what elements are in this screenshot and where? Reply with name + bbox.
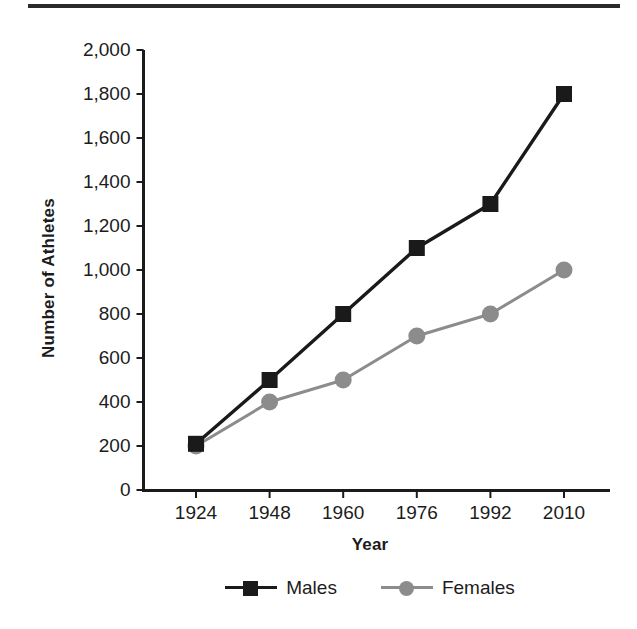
data-point-females-1960 bbox=[335, 372, 352, 389]
legend-marker-circle-icon bbox=[399, 581, 414, 596]
data-point-males-1960 bbox=[335, 306, 351, 322]
series-line-females bbox=[196, 270, 564, 446]
legend-label: Females bbox=[442, 578, 515, 597]
series-line-males bbox=[196, 94, 564, 444]
legend-marker-square-icon bbox=[243, 581, 258, 596]
x-axis-tick-label: 1924 bbox=[156, 503, 236, 522]
y-axis-tick-label: 200 bbox=[45, 436, 131, 455]
legend-swatch-females-icon bbox=[381, 579, 433, 597]
data-point-females-2010 bbox=[556, 262, 573, 279]
data-point-males-1948 bbox=[262, 372, 278, 388]
data-point-males-1976 bbox=[409, 240, 425, 256]
chart-figure: 02004006008001,0001,2001,4001,6001,8002,… bbox=[0, 0, 637, 629]
legend-label: Males bbox=[286, 578, 337, 597]
x-axis-tick-label: 1960 bbox=[303, 503, 383, 522]
y-axis-tick-label: 1,600 bbox=[45, 128, 131, 147]
y-axis-tick-label: 2,000 bbox=[45, 40, 131, 59]
y-axis-tick-label: 0 bbox=[45, 480, 131, 499]
series-lines-group bbox=[196, 94, 564, 446]
chart-legend: MalesFemales bbox=[130, 578, 610, 597]
legend-swatch-males-icon bbox=[225, 579, 277, 597]
y-axis-tick-label: 1,800 bbox=[45, 84, 131, 103]
x-axis-tick-label: 1948 bbox=[230, 503, 310, 522]
data-point-females-1992 bbox=[482, 306, 499, 323]
x-axis-tick-label: 1992 bbox=[450, 503, 530, 522]
data-point-males-1992 bbox=[482, 196, 498, 212]
x-axis-tick-label: 1976 bbox=[377, 503, 457, 522]
x-axis-tick-label: 2010 bbox=[524, 503, 604, 522]
x-axis-title: Year bbox=[130, 535, 610, 555]
data-point-females-1976 bbox=[408, 328, 425, 345]
data-point-males-1924 bbox=[188, 436, 204, 452]
y-axis-title: Number of Athletes bbox=[39, 153, 59, 403]
legend-entry-males[interactable]: Males bbox=[225, 578, 337, 597]
legend-entry-females[interactable]: Females bbox=[381, 578, 515, 597]
data-point-females-1948 bbox=[261, 394, 278, 411]
data-point-males-2010 bbox=[556, 86, 572, 102]
